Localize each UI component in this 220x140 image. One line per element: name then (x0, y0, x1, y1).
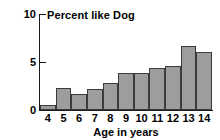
y-axis-tick-mark (40, 110, 46, 111)
x-axis-title: Age in years (40, 126, 212, 138)
bar (40, 105, 56, 110)
bar (181, 46, 197, 110)
x-axis-tick-label: 12 (165, 112, 181, 124)
bar (118, 73, 134, 110)
bar (134, 73, 150, 110)
x-axis-tick-label: 11 (149, 112, 165, 124)
x-axis-line (39, 110, 213, 111)
bar (196, 52, 212, 110)
x-axis-tick-label: 9 (118, 112, 134, 124)
bar (165, 66, 181, 110)
bar (87, 89, 103, 110)
x-axis-tick-label: 4 (40, 112, 56, 124)
bar (71, 94, 87, 110)
y-axis-tick-label: 0 (0, 105, 36, 116)
bar (149, 68, 165, 110)
bar-series (40, 14, 212, 110)
y-axis-tick-label: 5 (0, 57, 36, 68)
x-axis-tick-label: 8 (103, 112, 119, 124)
x-axis-tick-label: 6 (71, 112, 87, 124)
x-axis-tick-label: 5 (56, 112, 72, 124)
bar-chart: Percent like Dog 0510 4567891011121314 A… (0, 0, 220, 140)
bar (103, 83, 119, 110)
bar (56, 88, 72, 110)
x-axis-tick-label: 13 (181, 112, 197, 124)
x-axis-tick-label: 7 (87, 112, 103, 124)
x-axis-tick-label: 10 (134, 112, 150, 124)
x-axis-tick-label: 14 (196, 112, 212, 124)
y-axis-tick-label: 10 (0, 9, 36, 20)
